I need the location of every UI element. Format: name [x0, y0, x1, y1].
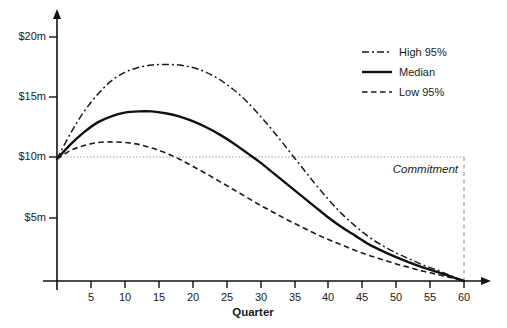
- commitment-annotation-label: Commitment: [354, 163, 458, 175]
- legend-label-low-95: Low 95%: [399, 86, 444, 98]
- legend-item-high-95[interactable]: High 95%: [362, 42, 482, 62]
- x-tick-marks: [91, 281, 464, 288]
- legend-item-low-95[interactable]: Low 95%: [362, 82, 482, 102]
- y-tick-marks: [49, 37, 57, 218]
- legend-label-high-95: High 95%: [399, 46, 447, 58]
- chart-container: $20m $15m $10m $5m 5 10 15 20 25 30 35 4…: [0, 0, 507, 328]
- legend-label-median: Median: [399, 66, 435, 78]
- legend-swatch-dash-dot-icon: [362, 46, 392, 58]
- legend-swatch-solid-icon: [362, 66, 392, 78]
- y-tick-label-5m: $5m: [0, 211, 46, 223]
- legend-swatch-dashed-icon: [362, 86, 392, 98]
- y-axis-arrowhead: [53, 9, 61, 19]
- legend-item-median[interactable]: Median: [362, 62, 482, 82]
- x-axis-arrowhead: [481, 277, 491, 285]
- chart-legend: High 95% Median Low 95%: [362, 42, 482, 102]
- x-tick-label-60: 60: [444, 291, 484, 303]
- y-tick-label-20m: $20m: [0, 30, 46, 42]
- x-axis-title: Quarter: [203, 306, 303, 318]
- y-tick-label-10m: $10m: [0, 150, 46, 162]
- y-tick-label-15m: $15m: [0, 90, 46, 102]
